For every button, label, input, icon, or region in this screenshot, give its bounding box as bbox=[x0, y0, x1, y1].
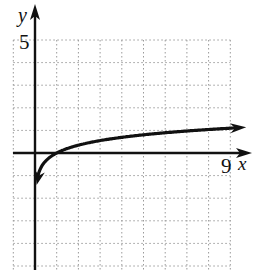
y-tick-label-5: 5 bbox=[19, 30, 30, 54]
log-graph: y 5 9 x bbox=[0, 0, 257, 270]
x-tick-label-9: 9 bbox=[221, 154, 232, 178]
x-axis-label: x bbox=[237, 153, 247, 174]
y-axis-label: y bbox=[16, 4, 27, 27]
grid bbox=[13, 40, 230, 270]
